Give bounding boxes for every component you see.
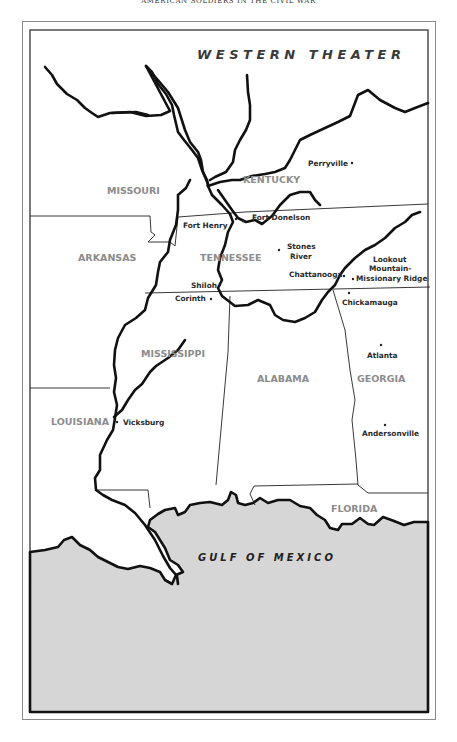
state-label-arkansas: ARKANSAS: [78, 252, 137, 263]
place-label-atlanta: Atlanta: [367, 351, 398, 360]
place-label-fort-henry: Fort Henry: [183, 221, 228, 230]
place-label-chickamauga: Chickamauga: [342, 298, 398, 307]
western-theater-map: WESTERN THEATER MISSOURI KENTUCKY ARKANS…: [0, 0, 457, 742]
state-label-kentucky: KENTUCKY: [243, 174, 300, 185]
place-label-corinth: Corinth: [175, 294, 206, 303]
place-dot-fort-donelson: [242, 220, 244, 222]
state-label-tennessee: TENNESSEE: [200, 252, 262, 263]
place-label-fort-donelson: Fort Donelson: [252, 213, 310, 222]
place-dot-chickamauga: [348, 292, 350, 294]
map-title: WESTERN THEATER: [197, 47, 405, 62]
state-label-alabama: ALABAMA: [257, 373, 310, 384]
place-dot-vicksburg: [116, 421, 118, 423]
state-label-mississippi: MISSISSIPPI: [141, 348, 205, 359]
place-label-chattanooga: Chattanooga: [289, 270, 342, 279]
place-label-shiloh: Shiloh: [191, 281, 217, 290]
state-label-florida: FLORIDA: [331, 503, 378, 514]
place-label-missionary-ridge: Missionary Ridge: [356, 274, 427, 283]
place-label-river: River: [290, 252, 312, 261]
place-dot-andersonville: [384, 424, 386, 426]
state-label-missouri: MISSOURI: [107, 185, 160, 196]
gulf-label: GULF OF MEXICO: [198, 552, 336, 563]
place-label-vicksburg: Vicksburg: [123, 418, 164, 427]
place-dot-perryville: [351, 162, 353, 164]
state-label-louisiana: LOUISIANA: [51, 416, 110, 427]
state-label-georgia: GEORGIA: [357, 373, 406, 384]
place-dot-shiloh: [219, 284, 221, 286]
place-dot-corinth: [210, 298, 212, 300]
place-label-andersonville: Andersonville: [362, 429, 419, 438]
place-dot-atlanta: [380, 344, 382, 346]
place-dot-missionary-ridge: [352, 278, 354, 280]
place-dot-chattanooga: [343, 275, 345, 277]
place-label-stones: Stones: [287, 242, 316, 251]
place-dot-stones-river: [278, 249, 280, 251]
place-label-mountain: Mountain-: [369, 264, 411, 273]
place-dot-fort-henry: [235, 218, 237, 220]
place-label-perryville: Perryville: [308, 159, 348, 168]
place-label-lookout: Lookout: [373, 255, 407, 264]
